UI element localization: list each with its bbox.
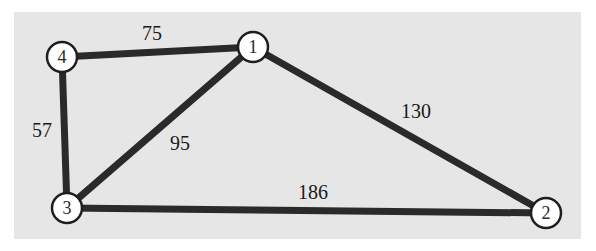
node-1: 1 (238, 32, 268, 62)
node-label: 3 (63, 198, 72, 218)
weight-label-4-1: 75 (142, 22, 162, 44)
edge-1-2 (253, 47, 546, 213)
weighted-graph: 75 130 57 95 186 1 2 3 4 (0, 0, 596, 251)
edge-1-3 (67, 47, 253, 208)
weight-label-1-2: 130 (401, 100, 431, 122)
weight-label-3-2: 186 (298, 181, 328, 203)
edge-4-1 (62, 47, 253, 57)
node-3: 3 (52, 193, 82, 223)
node-label: 2 (542, 203, 551, 223)
node-2: 2 (531, 198, 561, 228)
node-label: 1 (249, 37, 258, 57)
weight-label-4-3: 57 (32, 119, 52, 141)
edge-3-2 (67, 208, 546, 213)
edge-4-3 (62, 57, 67, 208)
node-4: 4 (47, 42, 77, 72)
node-label: 4 (58, 47, 67, 67)
weight-label-1-3: 95 (170, 132, 190, 154)
